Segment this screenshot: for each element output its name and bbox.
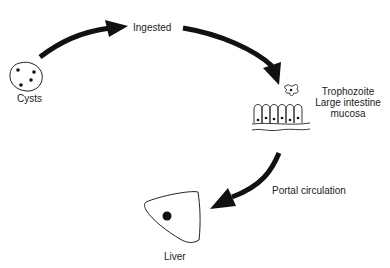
ingested-label: Ingested — [133, 22, 171, 33]
arrow-trophozoite-to-liver — [210, 153, 279, 209]
mucosa-label: mucosa — [308, 108, 388, 119]
liver-label: Liver — [164, 251, 186, 262]
trophozoite-label: Trophozoite — [308, 86, 388, 97]
arrow-ingested-to-trophozoite — [183, 28, 281, 85]
trophozoite-icon — [285, 85, 298, 96]
arrow-cysts-to-ingested — [40, 20, 128, 57]
portal-circulation-label: Portal circulation — [272, 185, 346, 196]
trophozoite-label-block: Trophozoite Large intestine mucosa — [308, 86, 388, 119]
liver-cell-icon — [145, 192, 201, 243]
cysts-label: Cysts — [17, 93, 42, 104]
life-cycle-diagram — [0, 0, 390, 268]
cysts-icon — [10, 62, 42, 91]
large-intestine-label: Large intestine — [308, 97, 388, 108]
